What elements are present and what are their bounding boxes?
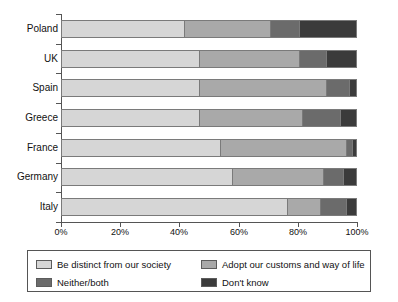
legend-item[interactable]: Neither/both xyxy=(36,275,201,290)
bar-segment xyxy=(324,169,345,185)
bar-segment xyxy=(62,169,233,185)
bar-segment xyxy=(200,51,300,67)
legend-item[interactable]: Be distinct from our society xyxy=(36,257,201,272)
bar-poland xyxy=(61,20,357,38)
category-label-uk: UK xyxy=(44,53,58,64)
bar-segment xyxy=(344,169,356,185)
bar-segment xyxy=(185,21,270,37)
bar-segment xyxy=(233,169,324,185)
bar-segment xyxy=(327,51,356,67)
x-axis-tick-label: 80% xyxy=(289,227,307,237)
bar-segment xyxy=(303,110,341,126)
y-axis-tick xyxy=(56,73,61,74)
bar-segment xyxy=(341,110,356,126)
bar-segment xyxy=(200,110,303,126)
bar-france xyxy=(61,139,357,157)
bar-italy xyxy=(61,198,357,216)
x-axis-tick-label: 0% xyxy=(54,227,67,237)
bar-segment xyxy=(347,199,356,215)
y-axis-tick xyxy=(56,103,61,104)
legend-label: Be distinct from our society xyxy=(57,260,171,270)
bar-germany xyxy=(61,168,357,186)
bar-segment xyxy=(321,199,347,215)
bar-segment xyxy=(350,80,356,96)
bar-segment xyxy=(288,199,320,215)
plot-area: PolandUKSpainGreeceFranceGermanyItaly 0%… xyxy=(0,0,398,238)
category-label-spain: Spain xyxy=(32,82,58,93)
y-axis-tick xyxy=(56,192,61,193)
legend: Be distinct from our societyAdopt our cu… xyxy=(27,250,371,292)
bar-segment xyxy=(300,21,356,37)
legend-swatch-icon xyxy=(36,278,52,287)
bar-spain xyxy=(61,79,357,97)
legend-swatch-icon xyxy=(36,260,52,269)
x-axis-tick-label: 60% xyxy=(230,227,248,237)
x-axis-tick-label: 20% xyxy=(111,227,129,237)
bar-uk xyxy=(61,50,357,68)
legend-item[interactable]: Don't know xyxy=(201,275,366,290)
bar-greece xyxy=(61,109,357,127)
category-label-italy: Italy xyxy=(40,201,58,212)
bar-segment xyxy=(271,21,300,37)
legend-items: Be distinct from our societyAdopt our cu… xyxy=(36,257,366,293)
y-axis-tick xyxy=(56,44,61,45)
y-axis-tick xyxy=(56,14,61,15)
y-axis-tick xyxy=(56,163,61,164)
y-axis-tick xyxy=(56,133,61,134)
bar-segment xyxy=(62,140,221,156)
bar-segment xyxy=(62,21,185,37)
category-label-poland: Poland xyxy=(27,23,58,34)
bar-segment xyxy=(200,80,326,96)
bar-segment xyxy=(353,140,356,156)
bar-segment xyxy=(327,80,351,96)
stacked-bar-chart: PolandUKSpainGreeceFranceGermanyItaly 0%… xyxy=(0,0,398,302)
category-label-germany: Germany xyxy=(17,171,58,182)
legend-swatch-icon xyxy=(201,278,217,287)
legend-swatch-icon xyxy=(201,260,217,269)
legend-label: Neither/both xyxy=(57,278,109,288)
x-axis-tick-label: 100% xyxy=(345,227,368,237)
category-label-france: France xyxy=(27,142,58,153)
legend-item[interactable]: Adopt our customs and way of life xyxy=(201,257,366,272)
bar-segment xyxy=(62,199,288,215)
bar-segment xyxy=(62,51,200,67)
category-label-greece: Greece xyxy=(25,112,58,123)
bar-segment xyxy=(62,80,200,96)
x-axis-line xyxy=(61,222,357,223)
x-axis-tick-label: 40% xyxy=(170,227,188,237)
bar-segment xyxy=(62,110,200,126)
bar-segment xyxy=(300,51,326,67)
legend-label: Don't know xyxy=(222,278,269,288)
legend-label: Adopt our customs and way of life xyxy=(222,260,365,270)
bar-segment xyxy=(221,140,347,156)
